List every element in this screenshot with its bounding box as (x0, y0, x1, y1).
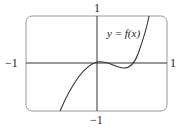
y-min-tick-label: −1 (90, 114, 103, 126)
x-max-tick-label: 1 (170, 57, 176, 69)
function-label: y = f(x) (107, 27, 140, 39)
chart-canvas (0, 0, 184, 128)
x-min-tick-label: −1 (5, 57, 18, 69)
y-max-tick-label: 1 (94, 2, 100, 14)
